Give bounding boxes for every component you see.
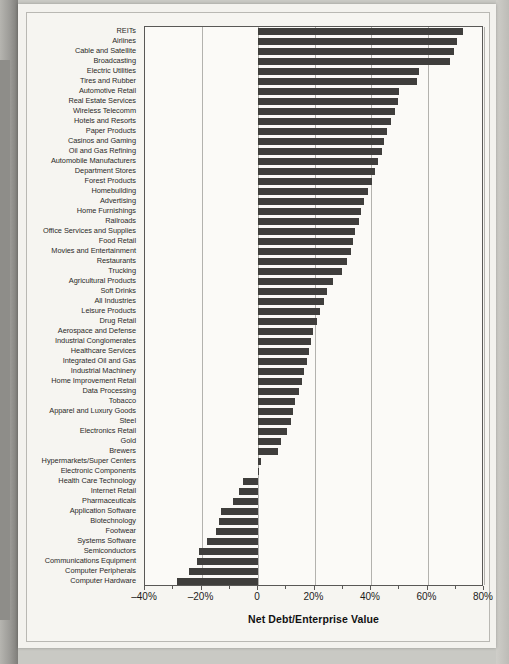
bar: [258, 398, 295, 405]
bar-row: [145, 87, 482, 97]
bar-row: [145, 237, 482, 247]
category-label: Health Care Technology: [0, 476, 140, 486]
bar: [258, 288, 327, 295]
bar: [258, 228, 355, 235]
x-tick: [370, 586, 371, 590]
bar-row: [145, 527, 482, 537]
category-label: Leisure Products: [0, 306, 140, 316]
bar-row: [145, 397, 482, 407]
bar: [258, 358, 307, 365]
bar-row: [145, 97, 482, 107]
category-label: Tobacco: [0, 396, 140, 406]
category-label: Brewers: [0, 446, 140, 456]
bar: [258, 58, 450, 65]
bar-row: [145, 227, 482, 237]
category-label: Pharmaceuticals: [0, 496, 140, 506]
bar: [258, 248, 351, 255]
category-label: Electric Utilities: [0, 66, 140, 76]
bar-row: [145, 27, 482, 37]
bar: [221, 508, 258, 515]
bar: [258, 78, 417, 85]
bar: [189, 568, 258, 575]
category-label: Aerospace and Defense: [0, 326, 140, 336]
bar-row: [145, 117, 482, 127]
bar: [258, 148, 382, 155]
bar: [258, 138, 384, 145]
bar: [258, 268, 342, 275]
plot-area: [144, 26, 483, 586]
scanned-page: REITsAirlinesCable and SatelliteBroadcas…: [0, 0, 509, 664]
category-label: Airlines: [0, 36, 140, 46]
bar: [258, 128, 387, 135]
category-label: Agricultural Products: [0, 276, 140, 286]
bar-row: [145, 157, 482, 167]
category-label: Movies and Entertainment: [0, 246, 140, 256]
bar: [258, 438, 281, 445]
bar: [258, 338, 311, 345]
bar-row: [145, 127, 482, 137]
gridline: [484, 27, 485, 585]
bar: [258, 108, 395, 115]
bar-row: [145, 497, 482, 507]
category-label: REITs: [0, 26, 140, 36]
bar: [258, 388, 299, 395]
bar-row: [145, 407, 482, 417]
category-label: Electronics Retail: [0, 426, 140, 436]
bar-row: [145, 287, 482, 297]
bar-row: [145, 357, 482, 367]
bar: [258, 318, 317, 325]
bar: [258, 378, 302, 385]
x-tick: [483, 586, 484, 590]
x-tick-minor: [285, 586, 286, 589]
bar: [258, 278, 333, 285]
category-label: Gold: [0, 436, 140, 446]
bar: [258, 198, 364, 205]
bar-row: [145, 327, 482, 337]
x-tick: [427, 586, 428, 590]
bar: [199, 548, 258, 555]
bar: [258, 98, 398, 105]
bar-row: [145, 57, 482, 67]
category-axis-labels: REITsAirlinesCable and SatelliteBroadcas…: [0, 26, 140, 586]
category-label: Automobile Manufacturers: [0, 156, 140, 166]
category-label: Home Improvement Retail: [0, 376, 140, 386]
category-label: Oil and Gas Refining: [0, 146, 140, 156]
category-label: Automotive Retail: [0, 86, 140, 96]
bar-row: [145, 107, 482, 117]
category-label: Steel: [0, 416, 140, 426]
category-label: Computer Hardware: [0, 576, 140, 586]
bar-row: [145, 187, 482, 197]
bar-row: [145, 167, 482, 177]
bar: [216, 528, 258, 535]
bar: [258, 218, 359, 225]
bar-row: [145, 277, 482, 287]
category-label: Cable and Satellite: [0, 46, 140, 56]
category-label: Home Furnishings: [0, 206, 140, 216]
category-label: Food Retail: [0, 236, 140, 246]
bar: [258, 208, 361, 215]
bar: [233, 498, 258, 505]
bar-row: [145, 427, 482, 437]
x-axis-title: Net Debt/Enterprise Value: [144, 613, 483, 625]
category-label: Casinos and Gaming: [0, 136, 140, 146]
category-label: Paper Products: [0, 126, 140, 136]
bar: [177, 578, 258, 585]
bar: [207, 538, 258, 545]
bar: [258, 68, 419, 75]
category-label: Industrial Machinery: [0, 366, 140, 376]
bar-row: [145, 457, 482, 467]
bar: [197, 558, 258, 565]
bar-row: [145, 267, 482, 277]
bar-row: [145, 477, 482, 487]
bar-row: [145, 567, 482, 577]
bar-row: [145, 367, 482, 377]
category-label: Hotels and Resorts: [0, 116, 140, 126]
category-label: Footwear: [0, 526, 140, 536]
x-tick-label: 40%: [360, 591, 380, 602]
category-label: Homebuilding: [0, 186, 140, 196]
category-label: Railroads: [0, 216, 140, 226]
category-label: Forest Products: [0, 176, 140, 186]
category-label: Drug Retail: [0, 316, 140, 326]
bar: [258, 308, 320, 315]
bar-row: [145, 47, 482, 57]
